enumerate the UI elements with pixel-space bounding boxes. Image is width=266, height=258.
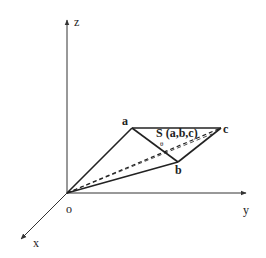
theta-label: θ	[160, 140, 164, 148]
z-axis-label: z	[74, 15, 79, 29]
ray-ob	[67, 162, 178, 193]
point-b-label: b	[175, 163, 182, 177]
y-axis-label: y	[243, 203, 249, 217]
x-axis	[21, 193, 67, 239]
ray-o-mid-dashed	[67, 134, 212, 193]
x-axis-label: x	[33, 236, 39, 250]
region-label: S (a,b,c)	[156, 126, 198, 140]
diagram-svg: z y x o a b c S (a,b,c) θ	[0, 0, 266, 258]
point-c-label: c	[223, 122, 229, 136]
diagram-canvas: z y x o a b c S (a,b,c) θ	[0, 0, 266, 258]
point-a-label: a	[122, 114, 128, 128]
origin-label: o	[66, 202, 72, 216]
